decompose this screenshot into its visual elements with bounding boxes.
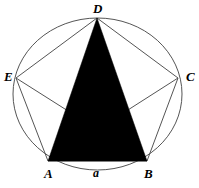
shaded-triangle-abd xyxy=(48,18,147,161)
geometry-figure: D E C A B a xyxy=(0,0,199,188)
vertex-label-c: C xyxy=(186,70,195,83)
vertex-label-a: A xyxy=(44,167,53,180)
vertex-label-b: B xyxy=(144,167,153,180)
vertex-label-e: E xyxy=(4,70,13,83)
figure-canvas xyxy=(0,0,199,188)
side-length-label-a: a xyxy=(93,167,99,179)
vertex-label-d: D xyxy=(93,2,102,15)
